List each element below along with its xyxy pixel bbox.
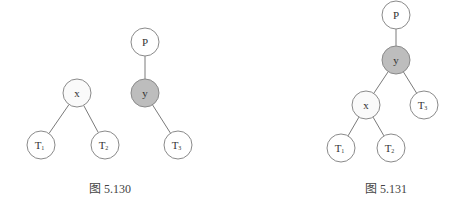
edge-x-t1 [49,105,69,134]
node-label: x [74,87,80,99]
node-t2: T2 [377,134,405,162]
node-subscript: 1 [41,145,44,151]
node-t1: T1 [327,134,355,162]
node-p: P [382,1,410,29]
node-x: x [352,91,380,119]
node-y: y [382,46,410,74]
edge-y-t3 [153,105,171,133]
node-subscript: 1 [341,148,344,154]
tree-rotation-diagram: xT1T2PyT3 PyxT3T1T2 图 5.130 图 5.131 [0,0,453,198]
node-subscript: 3 [178,145,181,151]
figure-5-130: xT1T2PyT3 [27,28,192,159]
edge-x-t2 [84,105,99,132]
node-label: y [142,87,148,99]
node-x: x [63,79,91,107]
node-subscript: 2 [105,145,108,151]
node-label: y [393,54,399,66]
edge-y-x [374,72,388,94]
node-y: y [131,79,159,107]
edge-x-t2 [373,117,384,136]
node-label: P [142,36,148,48]
node-subscript: 3 [424,105,427,111]
node-label: x [363,99,369,111]
node-label: P [393,9,399,21]
figure-5-131: PyxT3T1T2 [327,1,438,162]
edge-x-t1 [348,117,359,136]
node-subscript: 2 [391,148,394,154]
node-t3: T3 [164,131,192,159]
node-t3: T3 [410,91,438,119]
figure-caption-5-131: 图 5.131 [365,182,407,196]
figure-caption-5-130: 图 5.130 [89,182,131,196]
node-t1: T1 [27,131,55,159]
edge-y-t3 [403,72,416,93]
node-p: P [131,28,159,56]
node-t2: T2 [91,131,119,159]
